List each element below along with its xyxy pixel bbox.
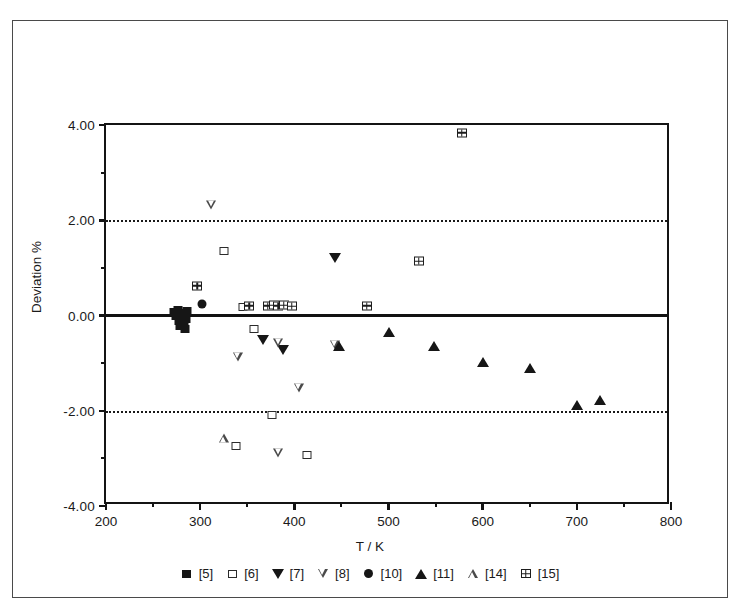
open-down-triangle-icon [233, 353, 243, 362]
chart-legend: [5][6][7][8][10][11][14][15] [13, 566, 727, 581]
open-square-icon [226, 568, 238, 579]
data-point-8 [206, 201, 216, 210]
y-tick [99, 314, 106, 317]
data-point-11 [571, 400, 583, 410]
open-down-triangle-icon [206, 201, 216, 210]
legend-item: [5] [181, 566, 213, 581]
open-up-triangle-icon [467, 568, 479, 579]
figure-panel: Deviation % T / K 4.002.000.00-2.00-4.00… [12, 20, 728, 598]
filled-square-icon [182, 307, 191, 315]
data-point-10 [198, 299, 207, 308]
data-point-8 [294, 383, 304, 392]
marker-glyph [228, 570, 237, 578]
data-point-6 [219, 247, 228, 255]
data-point-15 [362, 301, 372, 310]
gridded-square-icon [520, 568, 532, 579]
filled-up-triangle-icon [477, 357, 489, 367]
legend-item-label: [8] [335, 566, 349, 581]
open-down-triangle-icon [273, 339, 283, 348]
data-point-15 [457, 128, 467, 137]
data-point-8 [273, 448, 283, 457]
marker-glyph [468, 569, 478, 578]
legend-item-label: [11] [433, 566, 454, 581]
data-point-7 [329, 253, 341, 263]
open-square-icon [231, 442, 240, 450]
filled-circle-icon [363, 568, 375, 579]
y-tick [99, 410, 106, 413]
filled-up-triangle-icon [415, 568, 427, 579]
gridded-square-icon [244, 301, 254, 310]
open-down-triangle-icon [273, 448, 283, 457]
data-point-5 [181, 325, 190, 333]
x-tick-minor [623, 502, 625, 507]
data-point-15 [287, 302, 297, 311]
plot-area: 4.002.000.00-2.00-4.00200300400500600700… [104, 123, 669, 504]
legend-item: [11] [415, 566, 454, 581]
x-tick-minor [529, 502, 531, 507]
x-tick-minor [435, 502, 437, 507]
data-point-6 [267, 411, 276, 419]
gridded-square-icon [287, 302, 297, 311]
x-tick [670, 502, 673, 510]
legend-item: [6] [226, 566, 258, 581]
legend-item-label: [6] [244, 566, 258, 581]
filled-up-triangle-icon [571, 400, 583, 410]
gridded-square-icon [414, 257, 424, 266]
open-up-triangle-icon [219, 434, 229, 443]
marker-glyph [521, 569, 531, 578]
x-axis-title: T / K [13, 539, 727, 554]
data-point-8 [233, 353, 243, 362]
x-tick [293, 502, 296, 510]
x-tick-minor [340, 502, 342, 507]
filled-up-triangle-icon [524, 363, 536, 373]
y-tick-label: -2.00 [63, 403, 95, 418]
y-tick-label: 0.00 [68, 308, 95, 323]
x-tick [199, 502, 202, 510]
open-square-icon [302, 451, 311, 459]
data-point-6 [231, 442, 240, 450]
filled-up-triangle-icon [333, 341, 345, 351]
filled-square-icon [181, 568, 193, 579]
legend-item-label: [10] [381, 566, 403, 581]
filled-down-triangle-icon [272, 568, 284, 579]
y-axis-title: Deviation % [29, 241, 44, 313]
open-down-triangle-icon [294, 383, 304, 392]
filled-down-triangle-icon [329, 253, 341, 263]
legend-item: [14] [467, 566, 507, 581]
data-point-15 [244, 301, 254, 310]
x-tick-label: 700 [566, 514, 589, 529]
data-point-11 [333, 341, 345, 351]
data-point-15 [414, 257, 424, 266]
filled-down-triangle-icon [257, 335, 269, 345]
legend-item: [7] [272, 566, 304, 581]
x-tick-label: 200 [95, 514, 118, 529]
legend-item-label: [7] [290, 566, 304, 581]
open-square-icon [249, 325, 258, 333]
filled-square-icon [182, 315, 191, 323]
y-tick-label: -4.00 [63, 499, 95, 514]
x-tick-label: 500 [377, 514, 400, 529]
legend-item-label: [15] [538, 566, 560, 581]
marker-glyph [182, 570, 191, 578]
legend-item: [15] [520, 566, 560, 581]
marker-glyph [364, 569, 373, 578]
gridded-square-icon [192, 281, 202, 290]
x-tick [576, 502, 579, 510]
filled-up-triangle-icon [594, 395, 606, 405]
y-tick-label: 2.00 [68, 213, 95, 228]
x-tick [387, 502, 390, 510]
gridded-square-icon [457, 128, 467, 137]
filled-square-icon [181, 325, 190, 333]
legend-item: [10] [363, 566, 403, 581]
data-point-6 [249, 325, 258, 333]
filled-up-triangle-icon [428, 341, 440, 351]
filled-circle-icon [198, 299, 207, 308]
open-square-icon [267, 411, 276, 419]
data-point-14 [219, 434, 229, 443]
legend-item: [8] [317, 566, 349, 581]
legend-item-label: [14] [485, 566, 507, 581]
data-point-8 [273, 339, 283, 348]
open-square-icon [219, 247, 228, 255]
y-tick [99, 219, 106, 222]
data-point-15 [192, 281, 202, 290]
